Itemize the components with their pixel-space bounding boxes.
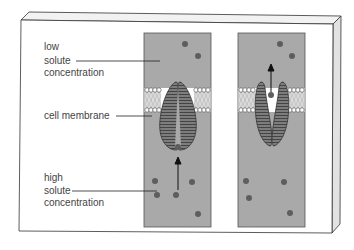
label-low-solute-line2: solute bbox=[44, 55, 71, 67]
diagram-canvas: low solute concentration cell membrane h… bbox=[0, 0, 354, 250]
diagram-svg bbox=[0, 0, 354, 250]
label-low-solute-line1: low bbox=[44, 41, 59, 53]
board-side-edge bbox=[332, 16, 341, 233]
label-high-solute-line1: high bbox=[44, 172, 63, 184]
left-panel bbox=[144, 33, 211, 227]
right-panel bbox=[238, 33, 305, 227]
label-cell-membrane: cell membrane bbox=[44, 110, 110, 122]
label-low-solute-line3: concentration bbox=[44, 67, 104, 79]
label-high-solute-line2: solute bbox=[44, 185, 71, 197]
label-high-solute-line3: concentration bbox=[44, 197, 104, 209]
